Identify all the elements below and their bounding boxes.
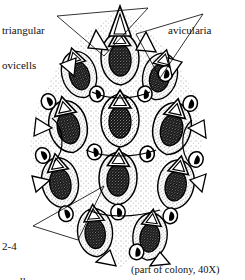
avicularia-label-line1: avicularia xyxy=(168,25,211,37)
avicularia-label: avicularia xyxy=(168,2,211,48)
triangular-ovicells-label: triangular ovicells xyxy=(2,2,45,83)
spines-label: 2-4 small spines per zooid xyxy=(2,218,43,280)
ovicells-label-line2: ovicells xyxy=(2,60,45,72)
magnification-caption: (part of colony, 40X) xyxy=(131,264,220,276)
spines-label-line1: 2-4 xyxy=(2,241,43,253)
ovicells-label-line1: triangular xyxy=(2,25,45,37)
spines-label-line2: small xyxy=(2,276,43,280)
